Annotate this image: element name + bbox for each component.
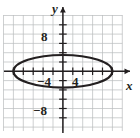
- figure-canvas: 8 −8 4 −4 x y: [0, 0, 140, 138]
- y-tick-label-8: 8: [41, 30, 48, 43]
- x-tick-label-neg4: −4: [37, 75, 51, 88]
- x-axis-label: x: [126, 79, 133, 92]
- y-axis: [60, 7, 66, 133]
- x-tick-label-4: 4: [72, 75, 79, 88]
- y-axis-label: y: [52, 2, 58, 15]
- coordinate-plot: [0, 0, 140, 138]
- y-tick-label-neg8: −8: [33, 104, 47, 117]
